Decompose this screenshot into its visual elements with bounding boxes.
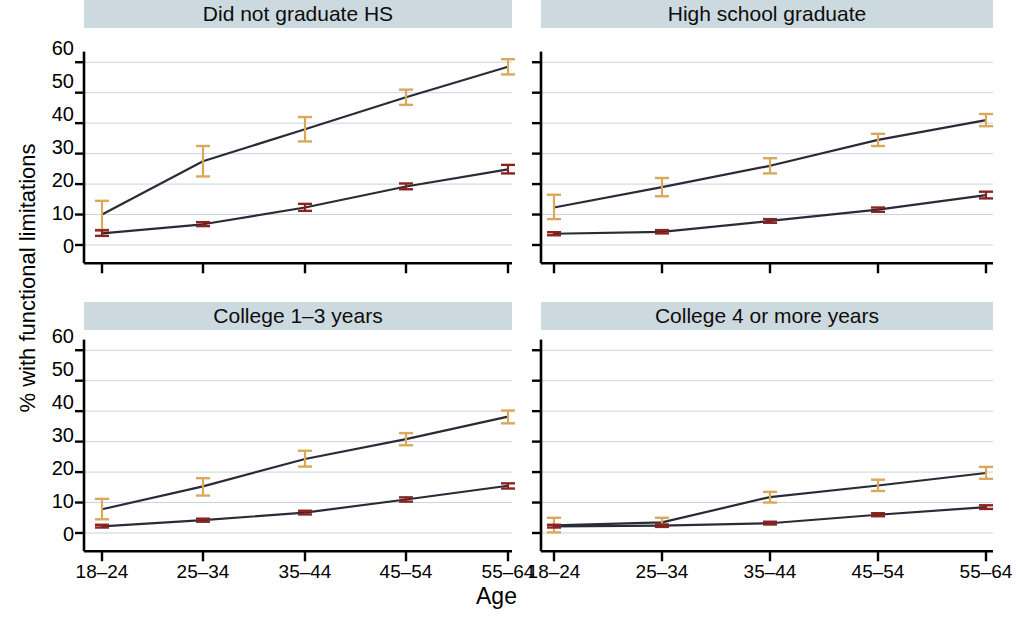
xtick-label-right-3: 45–54: [838, 561, 918, 583]
ytick-label-r1-40: 40: [34, 391, 74, 414]
ytick-label-r1-50: 50: [34, 358, 74, 381]
ytick-label-r0-60: 60: [34, 37, 74, 60]
panel-title-band-0: Did not graduate HS: [84, 0, 512, 28]
panel-college-1-3-years: [75, 340, 515, 562]
ytick-label-r0-50: 50: [34, 70, 74, 93]
xtick-label-left-2: 35–44: [265, 561, 345, 583]
panel-title: College 1–3 years: [213, 304, 382, 328]
panel-title: High school graduate: [668, 2, 866, 26]
xtick-label-right-2: 35–44: [730, 561, 810, 583]
panel-title: College 4 or more years: [655, 304, 879, 328]
panel-title: Did not graduate HS: [203, 2, 393, 26]
ytick-label-r0-30: 30: [34, 136, 74, 159]
ytick-label-r1-10: 10: [34, 490, 74, 513]
ytick-label-r1-60: 60: [34, 325, 74, 348]
ytick-label-r1-30: 30: [34, 424, 74, 447]
xtick-label-right-4: 55–64: [946, 561, 1017, 583]
ytick-label-r1-0: 0: [34, 523, 74, 546]
ytick-label-r1-20: 20: [34, 457, 74, 480]
ytick-label-r0-20: 20: [34, 169, 74, 192]
series-line-lower: [102, 169, 508, 233]
ytick-label-r0-40: 40: [34, 103, 74, 126]
panel-did-not-graduate-hs: [75, 52, 515, 274]
xtick-label-left-0: 18–24: [62, 561, 142, 583]
panel-high-school-graduate: [532, 52, 993, 274]
series-line-lower: [102, 486, 508, 527]
panel-title-band-1: High school graduate: [541, 0, 993, 28]
xtick-label-right-0: 18–24: [514, 561, 594, 583]
ytick-label-r0-10: 10: [34, 202, 74, 225]
panel-title-band-2: College 1–3 years: [84, 302, 512, 330]
xtick-label-left-1: 25–34: [163, 561, 243, 583]
panel-college-4-or-more-years: [532, 340, 993, 562]
xtick-label-right-1: 25–34: [622, 561, 702, 583]
panel-title-band-3: College 4 or more years: [541, 302, 993, 330]
x-axis-label: Age: [0, 583, 993, 610]
xtick-label-left-3: 45–54: [366, 561, 446, 583]
ytick-label-r0-0: 0: [34, 235, 74, 258]
